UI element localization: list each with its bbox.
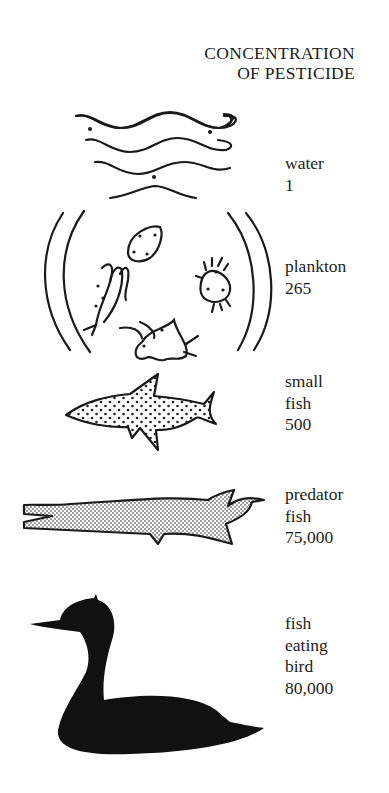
predator-fish-icon	[24, 490, 264, 544]
level-small-fish: small fish 500	[285, 371, 323, 436]
level-value: 500	[285, 414, 323, 436]
level-plankton: plankton 265	[285, 256, 346, 299]
level-fish-eating-bird: fish eating bird 80,000	[285, 613, 333, 699]
level-value: 265	[285, 278, 346, 300]
level-label: fish	[285, 393, 323, 415]
level-water: water 1	[285, 153, 324, 196]
plankton-icon	[45, 211, 271, 360]
level-label: predator	[285, 484, 343, 506]
level-label: water	[285, 153, 324, 175]
fish-eating-bird-icon	[30, 594, 264, 754]
level-label: bird	[285, 656, 333, 678]
level-value: 80,000	[285, 678, 333, 700]
small-fish-icon	[66, 374, 216, 450]
level-label: plankton	[285, 256, 346, 278]
level-value: 75,000	[285, 527, 343, 549]
level-predator-fish: predator fish 75,000	[285, 484, 343, 549]
level-label: eating	[285, 635, 333, 657]
level-label: small	[285, 371, 323, 393]
water-waves-icon	[76, 112, 236, 198]
level-label: fish	[285, 506, 343, 528]
level-label: fish	[285, 613, 333, 635]
level-value: 1	[285, 175, 324, 197]
